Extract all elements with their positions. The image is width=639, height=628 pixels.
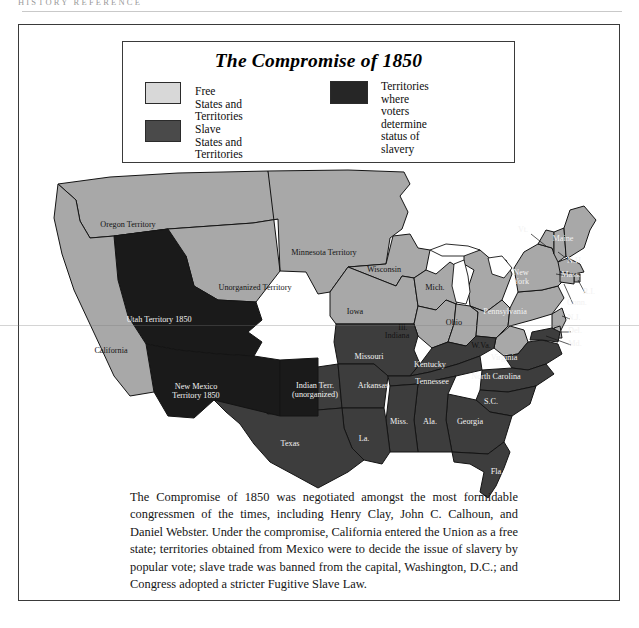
header-rule: [22, 11, 622, 12]
legend-label-slave: Slave States and Territories: [195, 123, 243, 161]
scan-line-artifact: [0, 325, 639, 326]
legend-swatch-free: [145, 82, 181, 104]
map-legend: The Compromise of 1850 Free States and T…: [122, 41, 515, 163]
legend-swatch-slave: [145, 120, 181, 142]
running-head: HISTORY REFERENCE: [18, 0, 318, 8]
legend-label-territories: Territories where voters determine statu…: [381, 80, 429, 155]
legend-label-free: Free States and Territories: [195, 85, 243, 123]
map-title: The Compromise of 1850: [123, 50, 514, 72]
legend-swatch-territories: [330, 81, 368, 104]
figure-caption: The Compromise of 1850 was negotiated am…: [130, 489, 518, 593]
